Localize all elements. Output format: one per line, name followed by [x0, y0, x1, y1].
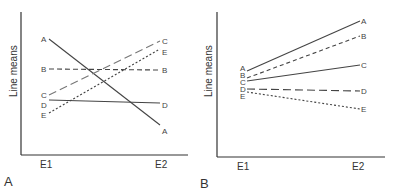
label-b-left: B — [41, 65, 46, 74]
series-e-line — [49, 49, 160, 113]
label-b-right: B — [361, 32, 366, 41]
label-a-right: A — [361, 17, 367, 26]
label-d-left: D — [41, 101, 47, 110]
series-d-line — [247, 89, 360, 91]
x-tick-e1: E1 — [40, 159, 53, 170]
label-e-right: E — [361, 105, 366, 114]
y-axis-label: Line means — [8, 45, 19, 97]
series-a-line — [247, 21, 360, 71]
y-axis-label: Line means — [203, 45, 214, 97]
x-tick-e2: E2 — [155, 159, 168, 170]
series-a-line — [49, 39, 160, 125]
figure: Line means E1 E2 A A B C D E A B C D E L… — [0, 0, 394, 196]
label-c-right: C — [162, 37, 168, 46]
label-c-right: C — [361, 61, 367, 70]
label-e-right: E — [162, 48, 167, 57]
label-d-right: D — [162, 101, 168, 110]
label-e-left: E — [41, 111, 46, 120]
panel-b: Line means E1 E2 B A B C D E A B C D E — [200, 12, 385, 191]
series-b-line — [49, 69, 160, 70]
label-a-left: A — [41, 35, 47, 44]
series-c-line — [49, 41, 160, 95]
label-a-right: A — [162, 127, 168, 136]
label-d-right: D — [361, 87, 367, 96]
series-d-line — [49, 100, 160, 103]
label-b-right: B — [162, 66, 167, 75]
panel-label: A — [4, 174, 13, 189]
series-e-line — [247, 92, 360, 109]
series-b-line — [247, 36, 360, 78]
label-e-left: E — [240, 92, 245, 101]
panel-a: Line means E1 E2 A A B C D E A B C D E — [4, 12, 188, 189]
x-tick-e1: E1 — [237, 161, 250, 172]
series-c-line — [247, 65, 360, 81]
panel-label: B — [200, 176, 209, 191]
label-c-left: C — [41, 91, 47, 100]
x-tick-e2: E2 — [352, 161, 365, 172]
